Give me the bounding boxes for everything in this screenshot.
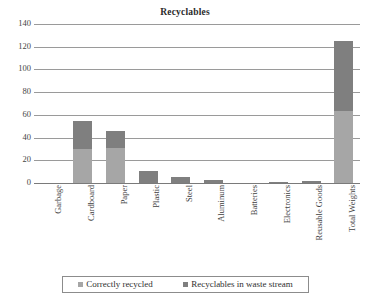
y-axis-tick-label: 80 bbox=[1, 87, 31, 96]
legend-item[interactable]: Recyclables in waste stream bbox=[183, 280, 293, 289]
recyclables-chart: Recyclables 140120100806040200 GarbageCa… bbox=[0, 0, 370, 304]
x-axis-label: Garbage bbox=[54, 185, 63, 214]
legend-item[interactable]: Correctly recycled bbox=[78, 280, 153, 289]
legend-swatch-icon bbox=[78, 282, 83, 287]
bar-column bbox=[106, 131, 125, 183]
plot-area bbox=[34, 24, 360, 183]
bar-segment-waste-stream bbox=[334, 41, 353, 111]
legend-label: Correctly recycled bbox=[86, 280, 153, 289]
bar-column bbox=[204, 180, 223, 183]
bar-segment-waste-stream bbox=[106, 131, 125, 148]
chart-legend: Correctly recycledRecyclables in waste s… bbox=[62, 276, 309, 293]
x-axis-label: Electronics bbox=[283, 185, 292, 223]
bar-segment-waste-stream bbox=[73, 121, 92, 149]
bar-segment-waste-stream bbox=[171, 177, 190, 183]
bar-segment-waste-stream bbox=[302, 181, 321, 183]
y-axis-tick-label: 20 bbox=[1, 155, 31, 164]
y-axis-tick-label: 100 bbox=[1, 64, 31, 73]
bar-column bbox=[334, 41, 353, 183]
y-axis-tick-label: 0 bbox=[1, 178, 31, 187]
bar-column bbox=[269, 182, 288, 183]
x-axis-label: Reusable Goods bbox=[315, 185, 324, 240]
bar-column bbox=[73, 121, 92, 183]
x-axis-label: Steel bbox=[185, 185, 194, 202]
x-axis-label: Aluminum bbox=[217, 185, 226, 222]
x-axis-label: Paper bbox=[120, 185, 129, 204]
bar-segment-correctly-recycled bbox=[73, 149, 92, 183]
x-axis-label: Cardboard bbox=[87, 185, 96, 221]
bar-segment-waste-stream bbox=[269, 182, 288, 183]
chart-title: Recyclables bbox=[0, 7, 370, 17]
legend-label: Recyclables in waste stream bbox=[191, 280, 293, 289]
x-axis-label: Total Weights bbox=[348, 185, 357, 232]
y-axis-tick-labels: 140120100806040200 bbox=[0, 24, 31, 183]
x-axis-label: Plastic bbox=[152, 185, 161, 208]
bar-column bbox=[171, 177, 190, 183]
y-axis-tick-label: 40 bbox=[1, 133, 31, 142]
y-axis-tick-label: 140 bbox=[1, 19, 31, 28]
bar-segment-waste-stream bbox=[139, 171, 158, 183]
legend-swatch-icon bbox=[183, 282, 188, 287]
bar-column bbox=[139, 171, 158, 183]
bars bbox=[34, 24, 360, 183]
bar-column bbox=[302, 181, 321, 183]
axis-baseline bbox=[34, 183, 360, 184]
y-axis-tick-label: 60 bbox=[1, 110, 31, 119]
x-axis-category-labels: GarbageCardboardPaperPlasticSteelAluminu… bbox=[34, 185, 360, 267]
x-axis-label: Batteries bbox=[250, 185, 259, 215]
bar-segment-correctly-recycled bbox=[106, 148, 125, 183]
bar-segment-waste-stream bbox=[204, 180, 223, 183]
y-axis-tick-label: 120 bbox=[1, 42, 31, 51]
bar-segment-correctly-recycled bbox=[334, 111, 353, 183]
